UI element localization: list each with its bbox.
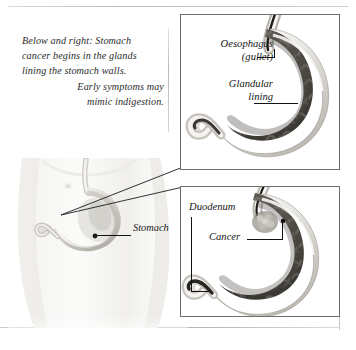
- oesophagus-leader-line: [257, 57, 275, 58]
- label-oesophagus-line1: Oesophagus: [221, 38, 273, 49]
- label-glandular-lining: Glandular lining: [187, 77, 273, 103]
- oesophagus-leader-tick: [274, 49, 275, 58]
- caption-line: cancer begins in the glands: [22, 48, 164, 63]
- cancer-lesion: [252, 211, 278, 233]
- glandular-leader-line: [254, 103, 298, 104]
- figure-caption: Below and right: Stomach cancer begins i…: [22, 33, 164, 109]
- label-glandular-line1: Glandular: [229, 78, 273, 89]
- page-rule-top: [8, 6, 348, 7]
- cancer-anchor-dot: [278, 216, 288, 226]
- label-duodenum: Duodenum: [189, 201, 236, 212]
- stomach-anchor-dot: [90, 231, 100, 241]
- stomach-leader-line: [96, 235, 131, 236]
- panel-connector-lines: [57, 125, 187, 220]
- label-stomach: Stomach: [133, 222, 169, 233]
- caption-divider-rule: [168, 28, 169, 132]
- duodenum-leader-horizontal: [191, 291, 209, 292]
- caption-line: lining the stomach walls.: [22, 63, 164, 78]
- panel-stomach-anatomy: Oesophagus (gullet) Glandular lining: [180, 14, 340, 170]
- caption-line: Early symptoms may: [22, 79, 164, 94]
- label-cancer: Cancer: [209, 231, 240, 242]
- label-oesophagus: Oesophagus (gullet): [187, 37, 273, 63]
- caption-line: mimic indigestion.: [22, 94, 164, 109]
- figure-page: Below and right: Stomach cancer begins i…: [0, 0, 356, 350]
- panel-stomach-cancer: Duodenum Cancer: [180, 186, 340, 317]
- caption-line: Below and right: Stomach: [22, 33, 164, 48]
- cancer-leader-horizontal: [247, 239, 283, 240]
- label-glandular-line2: lining: [248, 91, 273, 102]
- duodenum-leader-vertical: [191, 217, 192, 292]
